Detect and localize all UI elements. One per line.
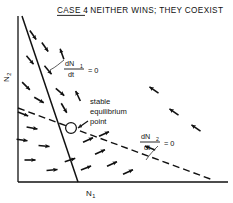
isocline-dn1-annotation: dN 1 dt = 0 — [50, 59, 98, 79]
vector-arrow — [191, 125, 200, 131]
dn1-denominator: dt — [68, 70, 74, 79]
vector-arrow — [61, 103, 67, 113]
equilibrium-annotation: stable equilibrium point — [78, 97, 127, 128]
x-axis-label-group: N 1 — [86, 189, 95, 199]
vector-arrow — [83, 138, 93, 143]
dn2-denominator: dt — [144, 143, 150, 152]
x-axis-label-subscript: 1 — [92, 193, 95, 199]
vector-arrow — [34, 97, 44, 103]
figure-container: CASE 4 : NEITHER WINS; THEY COEXIST N 2 … — [0, 0, 233, 203]
dn1-leader-line — [50, 60, 64, 70]
vector-arrow — [47, 170, 58, 171]
vector-arrow — [99, 132, 109, 137]
vector-arrow — [39, 146, 50, 147]
dn2-equals-zero: = 0 — [164, 139, 174, 148]
figure-title-group: CASE 4 : NEITHER WINS; THEY COEXIST — [57, 6, 223, 15]
vector-arrow — [56, 88, 64, 95]
phase-plane-figure: CASE 4 : NEITHER WINS; THEY COEXIST N 2 … — [0, 0, 233, 203]
vector-arrow — [26, 56, 33, 64]
vector-arrow — [60, 49, 64, 59]
isocline-dn2-annotation: dN 2 dt = 0 — [140, 132, 174, 160]
figure-title-rest: : NEITHER WINS; THEY COEXIST — [85, 6, 223, 15]
equilibrium-point-marker — [66, 123, 77, 134]
vector-arrow — [27, 127, 38, 129]
vector-arrow — [95, 150, 105, 155]
dn1-numerator-subscript: 1 — [80, 63, 83, 69]
vector-arrow — [107, 162, 117, 167]
dn1-numerator: dN — [65, 59, 74, 68]
y-axis-label: N — [2, 76, 11, 82]
vector-arrow — [149, 87, 158, 93]
y-axis-label-group: N 2 — [2, 73, 12, 82]
vector-arrow — [18, 112, 28, 116]
vector-arrow — [30, 30, 36, 39]
isocline-dn2-line — [18, 108, 213, 180]
dn2-numerator-subscript: 2 — [156, 136, 159, 142]
dn2-numerator: dN — [141, 132, 150, 141]
equilibrium-label-line2: equilibrium — [90, 107, 127, 116]
dn1-equals-zero: = 0 — [88, 66, 98, 75]
equilibrium-label-line1: stable — [90, 97, 110, 106]
equilibrium-leader-arrow — [78, 121, 88, 128]
vector-arrow — [22, 82, 30, 90]
vector-arrow — [42, 42, 48, 51]
equilibrium-label-line3: point — [90, 117, 107, 126]
isocline-dn1-line — [22, 16, 78, 182]
vector-arrow — [123, 170, 133, 175]
y-axis-label-subscript: 2 — [6, 73, 12, 76]
figure-title-prefix: CASE 4 — [57, 6, 88, 15]
vector-arrow — [76, 91, 81, 101]
x-axis-label: N — [86, 189, 92, 198]
vector-arrow — [81, 166, 91, 170]
vector-arrow — [169, 109, 178, 115]
